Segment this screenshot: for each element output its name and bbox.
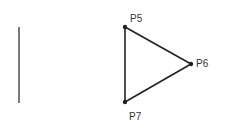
point-p5[interactable] [123,25,127,29]
edge-p6-p7 [125,64,191,102]
diagram-canvas: P5 P6 P7 [0,0,228,130]
point-p7[interactable] [123,100,127,104]
edge-p5-p6 [125,27,191,64]
label-p5: P5 [130,13,143,24]
point-p6[interactable] [189,62,193,66]
label-p7: P7 [129,111,142,122]
label-p6: P6 [196,58,209,69]
